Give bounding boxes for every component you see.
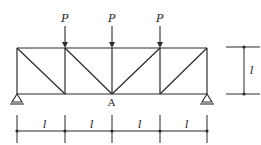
diagonal-member-3 — [112, 48, 160, 94]
arrowhead-icon — [109, 42, 115, 48]
dim-dot-icon — [242, 92, 245, 95]
dim-dot-icon — [158, 129, 161, 132]
arrowhead-icon — [62, 42, 68, 48]
dim-dot-icon — [205, 129, 208, 132]
pin-support-right-icon — [202, 94, 212, 102]
truss-diagram: P P P A l — [0, 0, 261, 145]
height-dimension — [226, 45, 260, 95]
dim-dot-icon — [63, 129, 66, 132]
node-label-a: A — [107, 97, 116, 108]
pin-support-left-icon — [12, 94, 22, 102]
panel-label-3: l — [138, 118, 142, 131]
diagonal-member-4 — [160, 48, 207, 94]
truss-members — [17, 48, 207, 94]
diagonal-member-2 — [65, 48, 112, 94]
dim-dot-icon — [110, 129, 113, 132]
dim-dot-icon — [15, 129, 18, 132]
load-label-2: P — [107, 12, 116, 25]
panel-label-1: l — [43, 118, 47, 131]
panel-label-4: l — [185, 118, 189, 131]
load-label-3: P — [155, 12, 164, 25]
diagonal-member-1 — [17, 48, 65, 94]
panel-label-2: l — [90, 118, 94, 131]
load-arrows — [62, 26, 163, 48]
dim-dot-icon — [242, 45, 245, 48]
height-label: l — [250, 64, 254, 77]
load-label-1: P — [60, 12, 69, 25]
arrowhead-icon — [157, 42, 163, 48]
truss-svg: P P P A l — [0, 0, 261, 145]
